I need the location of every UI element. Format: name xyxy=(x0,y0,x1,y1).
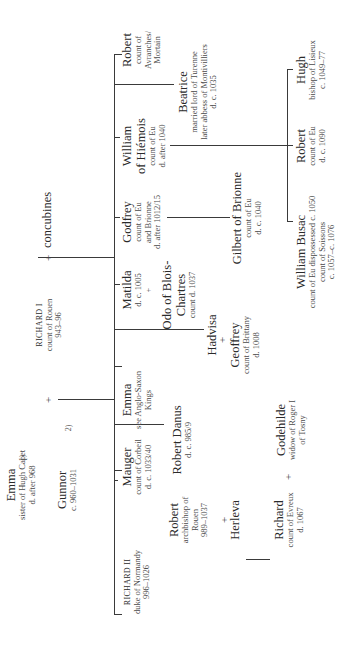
marriage-plus: + xyxy=(42,397,54,403)
sibling-bar xyxy=(114,55,115,615)
person-herleva: Herleva xyxy=(228,500,242,540)
tick-robert-eu xyxy=(287,145,293,146)
person-geoffrey: Geoffrey count of Brittany d. 1008 xyxy=(228,316,261,374)
tick-emma2 xyxy=(114,480,118,481)
marriage-plus-geoffrey: + xyxy=(216,337,228,343)
person-richard-evreux: Richard count of Evreux d. 1067 xyxy=(272,493,305,548)
descent-line-richard-evreux xyxy=(246,559,270,560)
tick-william-busac xyxy=(287,221,293,222)
descent-line-william-sons xyxy=(170,145,287,146)
person-emma-anglo-saxon: Emma see Anglo-Saxon Kings xyxy=(120,371,153,429)
descent-line-gilbert xyxy=(167,217,230,218)
person-odo: Odo of Blois- Chartres count d. 1037 xyxy=(160,261,198,330)
tick-hugh xyxy=(287,69,293,70)
marriage-plus-godehilde: + xyxy=(282,474,294,480)
genealogy-diagram: Emma sister of Hugh Capet d. after 968 1… xyxy=(0,0,346,670)
person-richard-i: RICHARD I count of Rouen 943–96 xyxy=(36,299,64,351)
person-gunnor: Gunnor c. 960–1031 xyxy=(55,469,79,511)
marker-2: 2) xyxy=(64,425,73,432)
person-hugh-lisieux: Hugh bishop of Lisieux c. 1049–77 xyxy=(294,40,327,100)
person-robert-archbishop: Robert archbishop of Rouen 989–1037 xyxy=(167,497,210,544)
concubines-label: concubines xyxy=(40,192,54,248)
person-godehilde: Godehilde widow of Roger I of Tosny xyxy=(274,400,307,460)
person-robert-danus: Robert Danus d. c. 985/9 xyxy=(170,405,194,474)
concubine-plus: + xyxy=(42,255,54,261)
marker-1: 1) xyxy=(18,455,27,462)
sons-bar xyxy=(287,70,288,222)
person-beatrice: Beatrice married lord of Turenne later a… xyxy=(176,44,219,140)
tick-robert-abp xyxy=(114,366,122,367)
person-gilbert-brionne: Gilbert of Brionne count of Eu d. c. 104… xyxy=(230,172,263,264)
person-matilda: Matilda d. c. 1005 + xyxy=(120,271,153,310)
descent-line-main xyxy=(58,399,114,400)
person-mauger: Mauger count of Corbeil d. c. 1033/40 xyxy=(120,439,153,495)
person-robert-avranches: Robert count of Avranches/ Mortain xyxy=(120,31,163,69)
person-robert-eu: Robert count of Eu d. c. 1090 xyxy=(294,126,327,166)
person-hadvisa: Hadvisa xyxy=(205,315,219,356)
person-william-hiemois: William of Hiémois count of Eu d. after … xyxy=(120,118,167,174)
tick-beatrice xyxy=(114,84,174,85)
person-godfrey: Godfrey count of Eu and Brionne d. after… xyxy=(120,195,163,249)
tick-richard-ii xyxy=(114,614,122,615)
person-richard-ii: RICHARD II duke of Normandy 996–1026 xyxy=(124,550,152,614)
person-william-busac: William Busac count of Eu dispossessed c… xyxy=(294,196,337,308)
